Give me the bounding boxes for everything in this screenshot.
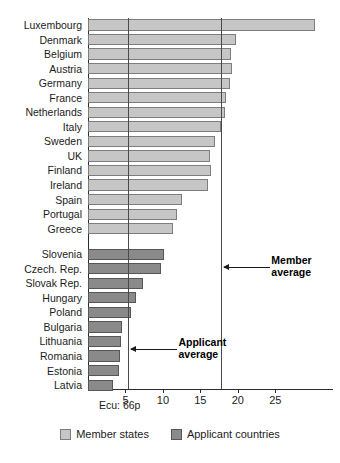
category-label: Latvia (0, 378, 86, 393)
bar-member (88, 63, 232, 74)
currency-note: Ecu: 66p (99, 399, 140, 411)
category-label: Luxembourg (0, 18, 86, 33)
bar-member (88, 209, 177, 220)
axis-tick (200, 389, 201, 393)
category-label: Romania (0, 349, 86, 364)
annotation-applicant-arrow (131, 349, 177, 350)
bar-applicant (88, 336, 121, 347)
bar-member (88, 92, 226, 103)
bar-member (88, 165, 211, 176)
category-label: France (0, 91, 86, 106)
group-separator-row (88, 236, 333, 247)
bar-row (88, 76, 333, 91)
annotation-member-line1: Member (271, 254, 311, 266)
category-label: Austria (0, 62, 86, 77)
bar-member (88, 150, 210, 161)
category-label: Ireland (0, 178, 86, 193)
annotation-applicant-line2: average (178, 348, 218, 360)
category-label: Portugal (0, 207, 86, 222)
bar-row (88, 163, 333, 178)
bar-applicant (88, 307, 131, 318)
bar-row (88, 149, 333, 164)
category-label: Netherlands (0, 105, 86, 120)
axis-tick (163, 389, 164, 393)
axis-tick (275, 389, 276, 393)
category-axis-labels: LuxembourgDenmarkBelgiumAustriaGermanyFr… (0, 18, 86, 393)
annotation-member-average: Member average (271, 254, 311, 278)
bar-member (88, 179, 208, 190)
category-label: Belgium (0, 47, 86, 62)
bar-row (88, 305, 333, 320)
bar-row (88, 291, 333, 306)
bar-applicant (88, 321, 122, 332)
bar-row (88, 134, 333, 149)
bar-row (88, 276, 333, 291)
category-label: Greece (0, 222, 86, 237)
bar-member (88, 121, 221, 132)
bar-member (88, 19, 315, 30)
bar-row (88, 320, 333, 335)
category-label: Spain (0, 193, 86, 208)
axis-tick (125, 389, 126, 393)
category-label: UK (0, 149, 86, 164)
category-label: Poland (0, 305, 86, 320)
bar-member (88, 78, 230, 89)
chart-legend: Member statesApplicant countries (0, 428, 340, 440)
axis-tick-label: 10 (157, 394, 169, 406)
category-label: Estonia (0, 364, 86, 379)
bar-member (88, 48, 231, 59)
legend-label: Applicant countries (187, 428, 280, 440)
bar-row (88, 120, 333, 135)
bar-member (88, 223, 173, 234)
annotation-applicant-line1: Applicant (178, 336, 226, 348)
category-label: Slovenia (0, 247, 86, 262)
category-label: Hungary (0, 291, 86, 306)
bar-row (88, 62, 333, 77)
legend-label: Member states (76, 428, 149, 440)
bar-applicant (88, 249, 164, 260)
bar-row (88, 47, 333, 62)
bar-member (88, 107, 225, 118)
bar-row (88, 178, 333, 193)
category-label: Italy (0, 120, 86, 135)
bar-row (88, 18, 333, 33)
axis-tick-label: 15 (194, 394, 206, 406)
category-label: Bulgaria (0, 320, 86, 335)
legend-item: Applicant countries (171, 428, 280, 440)
category-label: Slovak Rep. (0, 276, 86, 291)
bar-row (88, 222, 333, 237)
category-label: Czech. Rep. (0, 262, 86, 277)
reference-line-member-average (221, 18, 222, 389)
bar-row (88, 207, 333, 222)
bar-row (88, 364, 333, 379)
annotation-member-arrow (224, 267, 270, 268)
bar-applicant (88, 278, 143, 289)
bar-member (88, 194, 182, 205)
bar-applicant (88, 365, 119, 376)
axis-tick (238, 389, 239, 393)
annotation-member-line2: average (271, 266, 311, 278)
bar-member (88, 136, 215, 147)
bar-applicant (88, 380, 113, 391)
bar-row (88, 33, 333, 48)
category-label: Denmark (0, 33, 86, 48)
axis-tick-label: 20 (232, 394, 244, 406)
bar-row (88, 193, 333, 208)
legend-swatch (171, 429, 182, 440)
category-label: Germany (0, 76, 86, 91)
bar-row (88, 91, 333, 106)
category-label: Lithuania (0, 334, 86, 349)
bar-applicant (88, 263, 161, 274)
chart-container: LuxembourgDenmarkBelgiumAustriaGermanyFr… (0, 0, 340, 463)
axis-tick-label: 25 (269, 394, 281, 406)
group-separator (0, 236, 86, 247)
category-label: Finland (0, 163, 86, 178)
bar-applicant (88, 350, 120, 361)
category-label: Sweden (0, 134, 86, 149)
bar-row (88, 105, 333, 120)
plot-area: 510152025 Member average Applicant avera… (88, 18, 333, 389)
bar-member (88, 34, 236, 45)
annotation-applicant-average: Applicant average (178, 336, 226, 360)
legend-swatch (60, 429, 71, 440)
reference-line-applicant-average (128, 18, 129, 389)
